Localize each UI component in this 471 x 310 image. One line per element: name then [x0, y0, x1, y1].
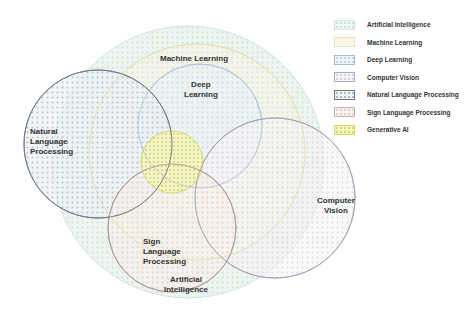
legend-item-dl: Deep Learning [334, 51, 459, 69]
legend-swatch-cv [334, 72, 355, 82]
label-nlp: Natural Language Processing [30, 127, 73, 157]
legend-swatch-dl [334, 55, 355, 65]
legend-item-ai: Artificial Intelligence [334, 16, 459, 34]
label-artificial-intelligence: Artificial Intelligence [164, 275, 208, 295]
label-deep-learning: Deep Learning [184, 80, 218, 100]
legend-swatch-ml [334, 37, 355, 47]
label-computer-vision: Computer Vision [317, 196, 355, 216]
legend-swatch-nlp [334, 90, 355, 100]
legend: Artificial Intelligence Machine Learning… [334, 16, 459, 139]
venn-diagram: Machine Learning Deep Learning Natural L… [0, 0, 471, 310]
label-machine-learning: Machine Learning [160, 54, 228, 64]
legend-item-nlp: Natural Language Processing [334, 86, 459, 104]
legend-swatch-genai [334, 125, 355, 135]
legend-item-ml: Machine Learning [334, 34, 459, 52]
legend-swatch-slp [334, 107, 355, 117]
legend-item-cv: Computer Vision [334, 69, 459, 87]
legend-item-slp: Sign Language Processing [334, 104, 459, 122]
label-sign-language-processing: Sign Language Processing [143, 237, 186, 267]
legend-swatch-ai [334, 20, 355, 30]
legend-item-genai: Generative AI [334, 121, 459, 139]
